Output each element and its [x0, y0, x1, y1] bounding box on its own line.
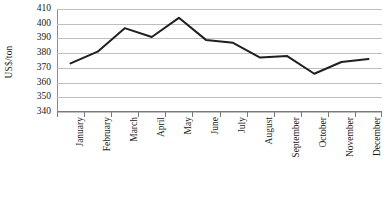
y-tick-label-400: 400	[37, 19, 51, 29]
x-tick-label-text: July	[238, 117, 248, 133]
data-series-line	[57, 9, 382, 112]
x-tick-label-july: July	[233, 109, 243, 125]
line-chart: US$/ton 410400390380370360350340 January…	[0, 0, 390, 198]
x-tick-label-text: March	[129, 117, 139, 142]
x-tick-label-september: September	[287, 97, 297, 138]
x-tick-label-text: May	[184, 117, 194, 134]
x-tick-label-november: November	[341, 97, 351, 137]
y-axis-tick-labels: 410400390380370360350340	[18, 0, 54, 124]
x-tick-label-october: October	[314, 102, 324, 133]
y-tick-label-350: 350	[37, 93, 51, 103]
x-tick-label-february: February	[98, 100, 108, 134]
x-tick-label-text: November	[346, 117, 356, 157]
x-tick-label-june: June	[206, 108, 216, 125]
x-tick-label-text: December	[373, 117, 383, 156]
y-axis-title-text: US$/ton	[4, 45, 14, 78]
plot-area	[57, 9, 382, 112]
y-tick-label-370: 370	[37, 63, 51, 73]
y-axis-title: US$/ton	[0, 0, 18, 124]
y-tick-label-340: 340	[37, 107, 51, 117]
x-tick-label-text: October	[319, 117, 329, 148]
x-tick-label-text: February	[102, 117, 112, 151]
x-tick-label-march: March	[125, 105, 135, 130]
series-polyline	[71, 18, 369, 74]
y-tick-label-390: 390	[37, 34, 51, 44]
x-tick-label-text: June	[211, 117, 221, 134]
y-tick-label-380: 380	[37, 48, 51, 58]
x-tick-label-text: January	[75, 117, 85, 147]
x-tick-label-text: September	[292, 117, 302, 158]
x-tick-label-december: December	[368, 97, 378, 136]
y-tick-label-410: 410	[37, 4, 51, 14]
x-tick-label-august: August	[260, 103, 270, 130]
x-tick-label-january: January	[71, 102, 81, 132]
x-tick-label-may: May	[179, 108, 189, 125]
x-tick-label-text: April	[157, 117, 167, 137]
y-tick-label-360: 360	[37, 78, 51, 88]
x-axis-tick-labels: JanuaryFebruaryMarchAprilMayJuneJulyAugu…	[57, 117, 382, 195]
x-tick-label-april: April	[152, 107, 162, 127]
x-tick-label-text: August	[265, 117, 275, 144]
